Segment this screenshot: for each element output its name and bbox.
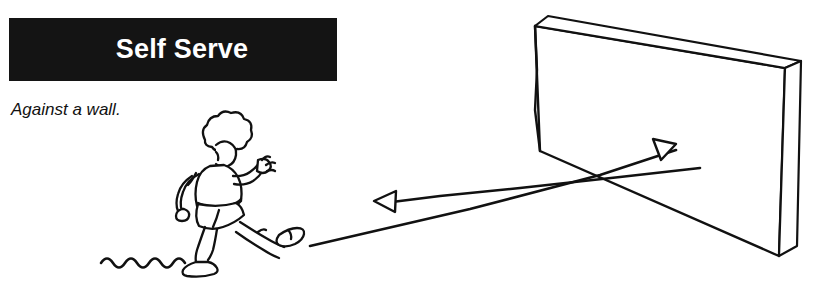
ground-wavy-line: [101, 259, 185, 268]
finger-3: [267, 170, 275, 171]
knee-detail: [258, 229, 266, 232]
head-profile: [216, 141, 236, 167]
kick-leg-bottom: [236, 232, 279, 258]
illustration-figure: [0, 0, 827, 290]
back-hand: [176, 209, 189, 221]
illustration-canvas: [0, 0, 827, 290]
arrow-from-wall-head: [374, 191, 396, 212]
shorts: [196, 203, 244, 229]
illustration-page: Self Serve Against a wall.: [0, 0, 827, 290]
child-figure: [176, 112, 304, 277]
rear-leg-back: [208, 229, 217, 260]
rear-shoe: [183, 262, 218, 277]
rear-leg-front: [196, 227, 205, 262]
wall-shape: [535, 16, 801, 256]
